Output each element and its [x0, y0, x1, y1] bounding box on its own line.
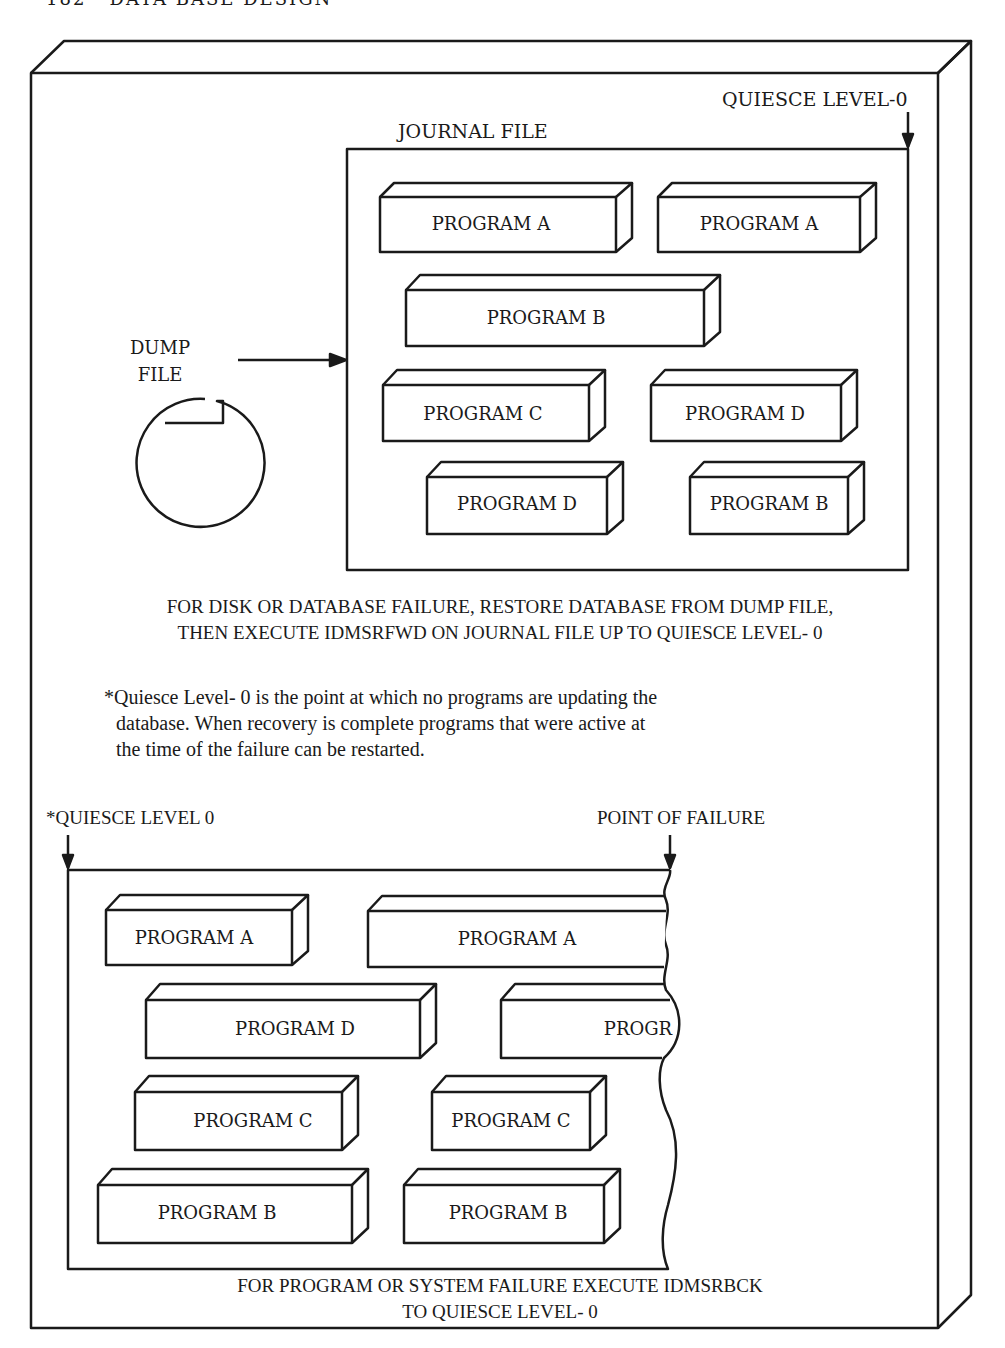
- caption-line-1: FOR DISK OR DATABASE FAILURE, RESTORE DA…: [60, 594, 940, 620]
- footnote-line-1: *Quiesce Level- 0 is the point at which …: [104, 684, 884, 710]
- rollback-caption-line-1: FOR PROGRAM OR SYSTEM FAILURE EXECUTE ID…: [60, 1273, 940, 1299]
- caption-line-2: THEN EXECUTE IDMSRFWD ON JOURNAL FILE UP…: [60, 620, 940, 646]
- journal-program-6: PROGRAM D: [457, 493, 577, 514]
- quiesce-level-top-label: QUIESCE LEVEL-0: [722, 88, 908, 110]
- rollback-program-1: PROGRAM A: [135, 927, 254, 948]
- quiesce-footnote: *Quiesce Level- 0 is the point at which …: [104, 684, 884, 762]
- footnote-line-2: database. When recovery is complete prog…: [104, 710, 884, 736]
- journal-program-5: PROGRAM D: [685, 403, 805, 424]
- journal-program-3: PROGRAM B: [487, 307, 606, 328]
- rollback-program-8: PROGRAM B: [449, 1202, 568, 1223]
- journal-file-label: JOURNAL FILE: [398, 120, 548, 142]
- recovery-diagram: [0, 0, 1005, 1348]
- rollback-program-2: PROGRAM A: [458, 928, 577, 949]
- rollback-program-6: PROGRAM C: [451, 1110, 570, 1131]
- journal-program-2: PROGRAM A: [700, 213, 819, 234]
- dump-file-label-2: FILE: [138, 364, 183, 385]
- rollback-program-7: PROGRAM B: [158, 1202, 277, 1223]
- journal-program-1: PROGRAM A: [432, 213, 551, 234]
- point-of-failure-label: POINT OF FAILURE: [597, 805, 765, 831]
- rollback-program-3: PROGRAM D: [235, 1018, 355, 1039]
- quiesce-level-bottom-label: *QUIESCE LEVEL 0: [46, 805, 214, 831]
- forward-recovery-caption: FOR DISK OR DATABASE FAILURE, RESTORE DA…: [60, 594, 940, 646]
- rollback-program-4: PROGR: [604, 1018, 672, 1039]
- rollback-caption: FOR PROGRAM OR SYSTEM FAILURE EXECUTE ID…: [60, 1273, 940, 1325]
- journal-program-4: PROGRAM C: [423, 403, 542, 424]
- rollback-program-5: PROGRAM C: [193, 1110, 312, 1131]
- dump-file-label-1: DUMP: [130, 337, 190, 358]
- journal-program-7: PROGRAM B: [710, 493, 829, 514]
- footnote-line-3: the time of the failure can be restarted…: [104, 736, 884, 762]
- rollback-caption-line-2: TO QUIESCE LEVEL- 0: [60, 1299, 940, 1325]
